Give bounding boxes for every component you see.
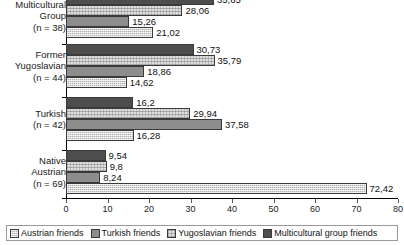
legend-swatch-icon	[10, 229, 19, 238]
bar-value-label: 16,2	[136, 97, 155, 108]
x-axis-tick	[274, 199, 275, 203]
x-axis-tick-label: 50	[268, 204, 278, 214]
bar-value-label: 9,54	[109, 150, 128, 161]
group-label-line: Group	[15, 10, 66, 22]
bar	[66, 5, 182, 16]
horizontal-bar-chart: MulticulturalGroup(n = 38)FormerYugoslav…	[0, 0, 404, 245]
legend-item: Turkish friends	[91, 228, 161, 238]
group-label-line: Multicultural	[15, 0, 66, 10]
legend-label: Multicultural group friends	[274, 228, 377, 238]
x-axis-tick	[191, 199, 192, 203]
y-axis-group-label: Turkish(n = 42)	[33, 108, 66, 131]
x-axis-tick	[398, 199, 399, 203]
bar-value-label: 30,73	[197, 44, 221, 55]
x-axis-tick	[357, 199, 358, 203]
group-label-line: Turkish	[33, 108, 66, 120]
y-axis-group-label: NativeAustrian(n = 69)	[31, 155, 66, 190]
chart-legend: Austrian friendsTurkish friendsYugoslavi…	[6, 225, 398, 241]
x-axis-tick	[232, 199, 233, 203]
x-axis-tick-label: 40	[227, 204, 237, 214]
bar	[66, 27, 153, 38]
x-axis-tick-label: 30	[185, 204, 195, 214]
bar-value-label: 28,06	[185, 5, 209, 16]
group-label-line: Former	[15, 49, 66, 61]
group-label-line: (n = 42)	[33, 119, 66, 131]
bar-value-label: 21,02	[156, 27, 180, 38]
bar-value-label: 9,8	[110, 161, 123, 172]
legend-swatch-icon	[91, 229, 100, 238]
bar	[66, 16, 129, 27]
x-axis-tick	[66, 199, 67, 203]
x-axis-tick-label: 80	[393, 204, 403, 214]
bar-value-label: 16,28	[137, 130, 161, 141]
group-label-line: Native	[31, 155, 66, 167]
bar-value-label: 18,86	[147, 66, 171, 77]
x-axis-tick-label: 10	[102, 204, 112, 214]
legend-item: Austrian friends	[10, 228, 84, 238]
bar-value-label: 72,42	[370, 183, 394, 194]
bar-value-label: 35,65	[217, 0, 241, 5]
bar	[66, 66, 144, 77]
x-axis-tick	[315, 199, 316, 203]
bar	[66, 108, 190, 119]
y-axis-group-label: MulticulturalGroup(n = 38)	[15, 0, 66, 33]
legend-label: Turkish friends	[102, 228, 161, 238]
bar-value-label: 14,62	[130, 77, 154, 88]
bar	[66, 55, 215, 66]
bar-value-label: 35,79	[218, 55, 242, 66]
x-axis-tick-label: 70	[351, 204, 361, 214]
group-label-line: (n = 69)	[31, 178, 66, 190]
bar	[66, 97, 133, 108]
group-label-line: (n = 44)	[15, 72, 66, 84]
bar	[66, 119, 222, 130]
legend-item: Multicultural group friends	[263, 228, 377, 238]
legend-label: Yugoslavian friends	[178, 228, 256, 238]
bar	[66, 183, 367, 194]
bar-value-label: 8,24	[103, 172, 122, 183]
y-axis-group-label: FormerYugoslavian(n = 44)	[15, 49, 66, 84]
x-axis-tick-label: 20	[144, 204, 154, 214]
legend-label: Austrian friends	[21, 228, 84, 238]
bar	[66, 172, 100, 183]
bar	[66, 161, 107, 172]
x-axis-tick-label: 60	[310, 204, 320, 214]
bar	[66, 77, 127, 88]
bar	[66, 44, 194, 55]
bar	[66, 150, 106, 161]
legend-swatch-icon	[263, 229, 272, 238]
x-axis-tick	[149, 199, 150, 203]
legend-swatch-icon	[167, 229, 176, 238]
bar-value-label: 15,26	[132, 16, 156, 27]
group-label-line: Austrian	[31, 166, 66, 178]
x-axis-tick-label: 0	[63, 204, 68, 214]
legend-item: Yugoslavian friends	[167, 228, 256, 238]
bar-value-label: 37,58	[225, 119, 249, 130]
x-axis-tick	[108, 199, 109, 203]
group-label-line: (n = 38)	[15, 22, 66, 34]
group-label-line: Yugoslavian	[15, 60, 66, 72]
bar-value-label: 29,94	[193, 108, 217, 119]
bar	[66, 130, 134, 141]
